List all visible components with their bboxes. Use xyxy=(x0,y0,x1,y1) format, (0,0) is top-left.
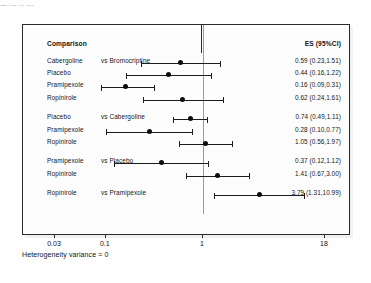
forest-plot-frame: Comparison ES (95%CI) Cabergolinevs Brom… xyxy=(22,24,350,235)
heterogeneity-note: Heterogeneity variance = 0 xyxy=(22,251,108,258)
row-treatment-label: Placebo xyxy=(47,113,71,120)
point-estimate-marker[interactable] xyxy=(203,141,208,146)
row-treatment-label: Ropinirole xyxy=(47,94,77,101)
axis-tick-label: 1 xyxy=(200,240,204,247)
row-es-value: 0.62 (0.24,1.61) xyxy=(295,94,341,101)
point-estimate-marker[interactable] xyxy=(188,116,193,121)
row-es-value: 0.74 (0.49,1.11) xyxy=(296,113,341,120)
ci-lower-cap xyxy=(126,73,127,79)
point-estimate-marker[interactable] xyxy=(147,129,152,134)
axis-tick xyxy=(202,235,203,238)
ci-upper-cap xyxy=(249,173,250,179)
x-axis-line xyxy=(22,234,350,235)
row-es-value: 3.79 (1.31,10.99) xyxy=(291,189,341,196)
header-comparison: Comparison xyxy=(47,40,87,47)
axis-tick xyxy=(54,235,55,238)
ci-upper-cap xyxy=(207,117,208,123)
ci-lower-cap xyxy=(101,85,102,91)
row-comparator-label: vs Pramipexole xyxy=(101,189,146,196)
ci-lower-cap xyxy=(106,129,107,135)
row-treatment-label: Ropinirole xyxy=(47,138,77,145)
row-es-value: 0.59 (0.23,1.51) xyxy=(295,57,341,64)
row-es-value: 1.41 (0.67,3.00) xyxy=(295,170,341,177)
axis-tick xyxy=(105,235,106,238)
column-divider xyxy=(201,25,202,53)
point-estimate-marker[interactable] xyxy=(180,97,185,102)
point-estimate-marker[interactable] xyxy=(166,72,171,77)
header-es: ES (95%CI) xyxy=(305,40,341,47)
ci-lower-cap xyxy=(179,141,180,147)
ci-upper-cap xyxy=(220,61,221,67)
ci-lower-cap xyxy=(186,173,187,179)
ci-lower-cap xyxy=(143,97,144,103)
point-estimate-marker[interactable] xyxy=(159,160,164,165)
forest-row[interactable]: Ropinirole1.41 (0.67,3.00) xyxy=(23,168,349,182)
row-es-value: 0.16 (0.09,0.31) xyxy=(295,81,341,88)
row-treatment-label: Ropinirole xyxy=(47,189,77,196)
ci-lower-cap xyxy=(214,193,215,199)
forest-row[interactable]: Ropinirolevs Pramipexole3.79 (1.31,10.99… xyxy=(23,187,349,201)
row-treatment-label: Ropinirole xyxy=(47,170,77,177)
ci-upper-cap xyxy=(223,97,224,103)
row-treatment-label: Pramipexole xyxy=(47,126,84,133)
forest-row[interactable]: Ropinirole0.62 (0.24,1.61) xyxy=(23,92,349,106)
axis-tick-label: 18 xyxy=(320,240,328,247)
point-estimate-marker[interactable] xyxy=(123,84,128,89)
ci-upper-cap xyxy=(211,73,212,79)
ci-upper-cap xyxy=(192,129,193,135)
axis-tick-label: 0.03 xyxy=(47,240,61,247)
row-comparator-label: vs Cabergoline xyxy=(101,113,145,120)
point-estimate-marker[interactable] xyxy=(215,173,220,178)
axis-tick xyxy=(324,235,325,238)
row-treatment-label: Cabergoline xyxy=(47,57,83,64)
forest-row[interactable]: Ropinirole1.05 (0.56,1.97) xyxy=(23,136,349,150)
axis-tick-label: 0.1 xyxy=(100,240,110,247)
row-treatment-label: Pramipexole xyxy=(47,81,84,88)
ci-upper-cap xyxy=(232,141,233,147)
ci-upper-cap xyxy=(208,161,209,167)
ci-lower-cap xyxy=(114,161,115,167)
row-es-value: 0.28 (0.10,0.77) xyxy=(295,126,341,133)
row-treatment-label: Pramipexole xyxy=(47,157,84,164)
top-text-fragment: — --- -- --- xyxy=(0,0,120,9)
point-estimate-marker[interactable] xyxy=(178,60,183,65)
point-estimate-marker[interactable] xyxy=(257,192,262,197)
ci-lower-cap xyxy=(141,61,142,67)
row-es-value: 1.05 (0.56,1.97) xyxy=(295,138,341,145)
row-treatment-label: Placebo xyxy=(47,69,71,76)
ci-lower-cap xyxy=(173,117,174,123)
row-es-value: 0.37 (0.12,1.12) xyxy=(295,157,341,164)
row-es-value: 0.44 (0.16,1.22) xyxy=(295,69,341,76)
ci-upper-cap xyxy=(154,85,155,91)
